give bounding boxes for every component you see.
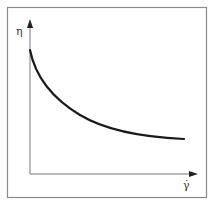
frame-border xyxy=(8,8,207,198)
x-axis-arrow-icon xyxy=(189,171,198,177)
y-axis-label: η xyxy=(16,26,23,37)
y-axis-arrow-icon xyxy=(27,19,33,28)
chart xyxy=(0,0,214,207)
x-axis-label: γ̇ xyxy=(183,180,190,191)
viscosity-curve xyxy=(30,50,184,139)
